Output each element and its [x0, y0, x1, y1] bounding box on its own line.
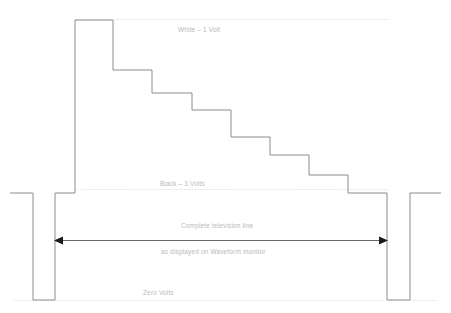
television-line-waveform-svg: [0, 0, 451, 313]
zero-level-label: Zero Volts: [140, 289, 177, 296]
waveform-trace: [10, 20, 441, 300]
dimension-label-line-1: Complete television line: [178, 222, 256, 229]
dimension-label-line-2: as displayed on Waveform monitor: [158, 248, 269, 255]
black-level-label: Black – 3 Volts: [157, 180, 208, 187]
waveform-diagram-canvas: White – 1 Volt Black – 3 Volts Zero Volt…: [0, 0, 451, 313]
white-level-label: White – 1 Volt: [175, 26, 223, 33]
